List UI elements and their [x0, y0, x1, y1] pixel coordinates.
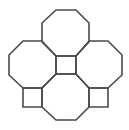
octagon-group — [9, 10, 122, 120]
square-group — [23, 56, 108, 107]
square-bottom-right — [89, 88, 108, 107]
square-bottom-left — [23, 88, 42, 107]
octagon-bottom — [42, 74, 89, 120]
square-center — [56, 56, 76, 74]
octagon-square-tiling-diagram — [0, 0, 129, 130]
